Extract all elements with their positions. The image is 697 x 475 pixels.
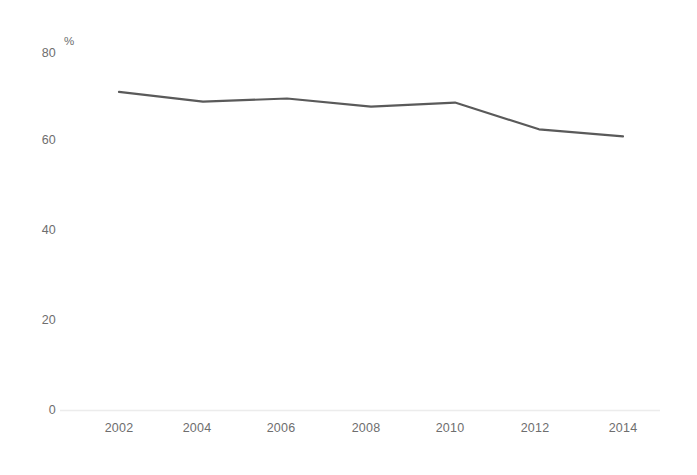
- data-series-line: [119, 92, 623, 137]
- plot-area: [0, 0, 697, 475]
- line-chart: % 80 60 40 20 0 2002 2004 2006 2008 2010…: [0, 0, 697, 475]
